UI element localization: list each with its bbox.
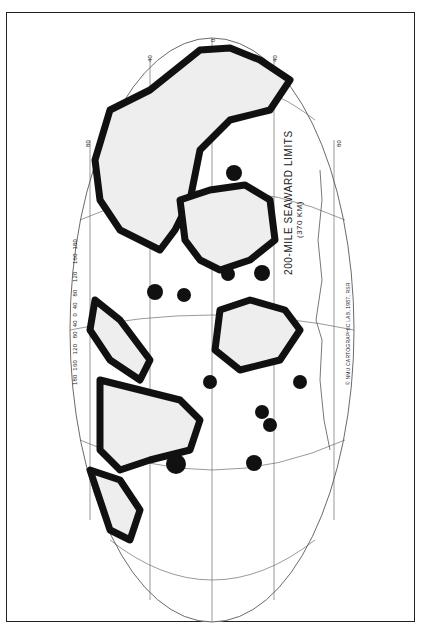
lat-label-80n: 80 xyxy=(85,140,91,147)
map-subtitle: (370 KM) xyxy=(295,201,304,238)
lon-label: 180 xyxy=(72,239,78,250)
lon-label: 80 xyxy=(72,331,78,338)
lon-label: 80 xyxy=(72,290,78,297)
lon-label: 180 xyxy=(72,374,78,385)
lon-label: 40 xyxy=(72,302,78,309)
lat-label-40n: 40 xyxy=(147,55,153,62)
lon-label: 160 xyxy=(72,360,78,371)
lat-label-40s: 40 xyxy=(272,55,278,62)
longitude-labels: 180 160 120 80 40 0 40 80 120 160 180 xyxy=(72,239,78,385)
map-credit: © NMU CARTOGRAPHIC LAB, 1987, RSR xyxy=(345,282,351,385)
lat-label-80s: 80 xyxy=(336,140,342,147)
lon-label: 40 xyxy=(72,320,78,327)
lon-label: 120 xyxy=(72,344,78,355)
lat-label-0: 0 xyxy=(210,38,216,42)
map-title: 200-MILE SEAWARD LIMITS xyxy=(283,130,294,275)
lon-label: 0 xyxy=(72,313,78,317)
lon-label: 120 xyxy=(72,271,78,282)
world-map xyxy=(0,0,421,628)
lon-label: 160 xyxy=(72,253,78,264)
